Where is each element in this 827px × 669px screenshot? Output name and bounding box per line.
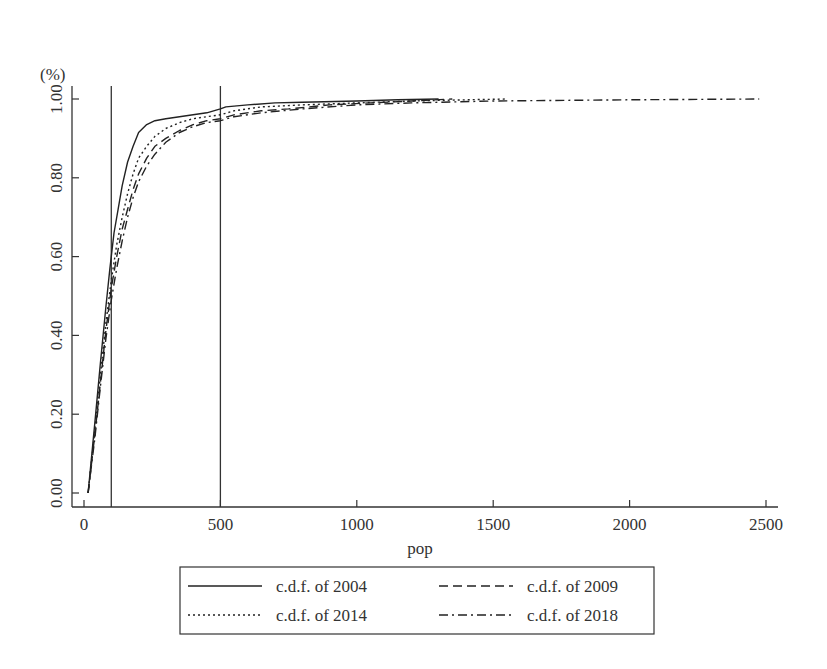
legend-label: c.d.f. of 2018 [527, 606, 618, 625]
series-c-d-f-of-2004 [88, 99, 439, 493]
y-tick-label: 1.00 [47, 84, 66, 114]
x-tick-label: 2000 [613, 515, 647, 534]
legend-label: c.d.f. of 2014 [276, 606, 368, 625]
y-tick-label: 0.80 [47, 163, 66, 193]
series-c-d-f-of-2009 [88, 99, 452, 493]
y-axis-unit-label: (%) [40, 65, 65, 84]
reference-lines [111, 86, 220, 507]
y-tick-label: 0.00 [47, 478, 66, 508]
legend-label: c.d.f. of 2009 [527, 577, 618, 596]
axes [72, 86, 778, 507]
x-axis-title: pop [407, 539, 433, 558]
legend-label: c.d.f. of 2004 [276, 577, 368, 596]
series-c-d-f-of-2014 [88, 99, 507, 493]
x-tick-label: 0 [80, 515, 89, 534]
x-tick-label: 500 [208, 515, 234, 534]
series-c-d-f-of-2018 [88, 99, 759, 493]
cdf-chart: (%) 0.000.200.400.600.801.00 05001000150… [0, 0, 827, 669]
y-ticks: 0.000.200.400.600.801.00 [47, 84, 79, 508]
y-tick-label: 0.60 [47, 242, 66, 272]
y-tick-label: 0.40 [47, 321, 66, 351]
y-tick-label: 0.20 [47, 399, 66, 429]
x-tick-label: 1500 [476, 515, 510, 534]
x-tick-label: 2500 [749, 515, 783, 534]
x-ticks: 05001000150020002500 [80, 500, 783, 534]
x-tick-label: 1000 [340, 515, 374, 534]
legend: c.d.f. of 2004 c.d.f. of 2009 c.d.f. of … [180, 567, 654, 634]
series-lines [88, 99, 759, 493]
